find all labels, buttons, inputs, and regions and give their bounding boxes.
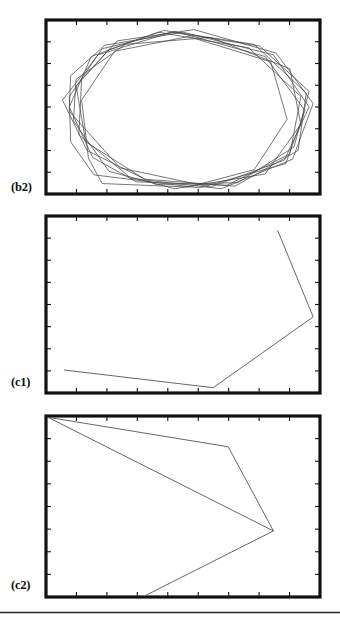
panel-c2-traces — [48, 417, 274, 595]
panel-b2-traces — [62, 30, 313, 189]
panel-c2-frame — [46, 416, 320, 597]
trace-loop-1 — [82, 37, 288, 188]
trace-loop-5 — [79, 30, 313, 189]
panel-b2 — [46, 20, 320, 194]
panel-b2-ticks — [46, 20, 320, 194]
panel-label-c2: (c2) — [11, 578, 30, 593]
trace-loop-7 — [69, 32, 309, 187]
panel-label-b2: (b2) — [11, 180, 32, 195]
trace-trace-c2-lower — [48, 417, 274, 595]
panel-c1 — [46, 216, 320, 393]
panel-c2-ticks — [46, 416, 320, 597]
figure-canvas — [0, 0, 340, 629]
panel-c1-ticks — [46, 216, 320, 393]
trace-trace-c1 — [64, 230, 313, 388]
panel-c2 — [46, 416, 320, 597]
panel-label-c1: (c1) — [11, 375, 30, 390]
panel-c1-traces — [64, 230, 313, 388]
panel-c1-frame — [46, 216, 320, 393]
panel-b2-frame — [46, 20, 320, 194]
